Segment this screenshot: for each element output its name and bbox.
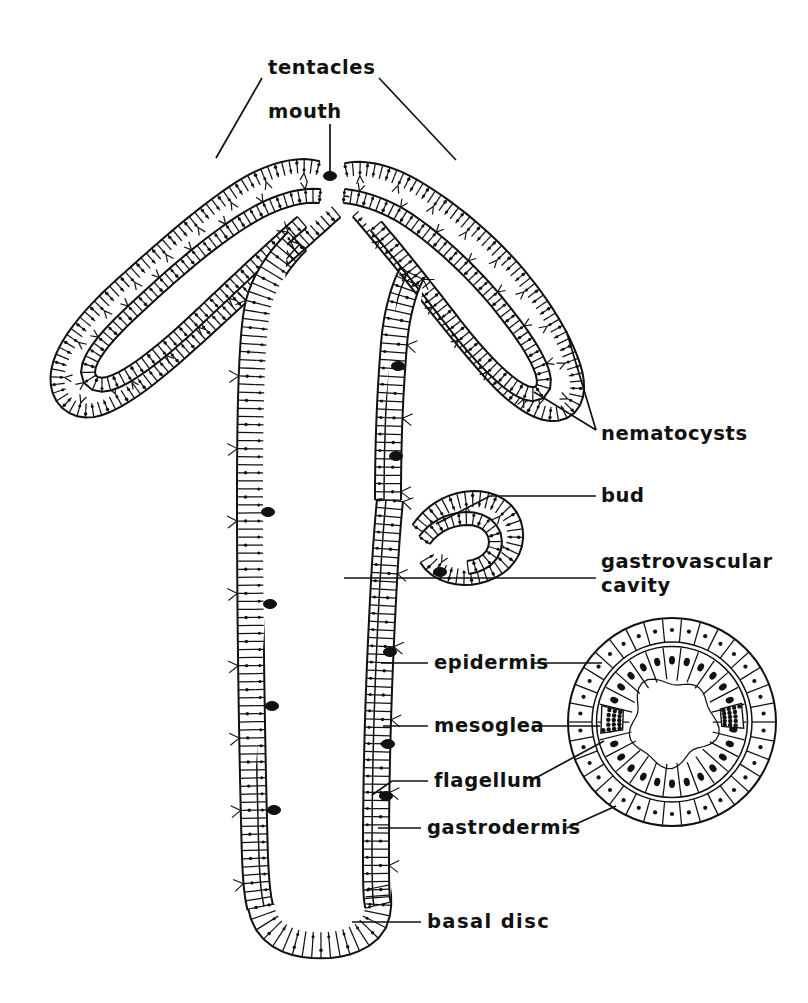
nematocyst-blob <box>380 792 393 801</box>
label-basal-disc: basal disc <box>427 910 550 933</box>
nematocyst-blob <box>382 740 395 749</box>
label-gastrovascular: gastrovascular <box>601 550 773 573</box>
label-flagellum: flagellum <box>434 769 542 792</box>
nematocyst-blob <box>268 806 281 815</box>
nematocyst-blob <box>264 600 277 609</box>
nematocyst-blob <box>266 702 279 711</box>
nematocyst-blob <box>392 362 405 371</box>
label-tentacles: tentacles <box>268 56 375 79</box>
label-bud: bud <box>601 484 645 507</box>
nematocyst-blob <box>384 648 397 657</box>
diagram-canvas: tentaclesmouthnematocystsbudgastrovascul… <box>0 0 808 1003</box>
label-mesoglea: mesoglea <box>434 714 544 737</box>
nematocyst-blob <box>262 508 275 517</box>
label-nematocysts: nematocysts <box>601 422 748 445</box>
label-cavity: cavity <box>601 574 671 597</box>
nematocyst-blob <box>324 172 337 181</box>
nematocyst-blob <box>390 452 403 461</box>
label-epidermis: epidermis <box>434 651 549 674</box>
label-gastrodermis: gastrodermis <box>427 816 581 839</box>
nematocyst-blob <box>434 568 447 577</box>
cross-section-group <box>568 618 776 826</box>
label-mouth: mouth <box>268 100 342 123</box>
hydra-diagram: tentaclesmouthnematocystsbudgastrovascul… <box>0 0 808 1003</box>
